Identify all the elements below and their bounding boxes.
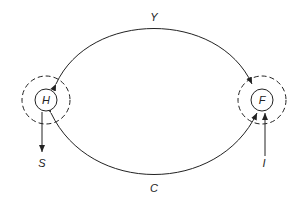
edge-y-arc bbox=[56, 29, 252, 85]
edge-i-label: I bbox=[262, 157, 265, 169]
edge-c-arc bbox=[51, 113, 257, 175]
edge-y-label: Y bbox=[150, 11, 158, 23]
diagram-canvas: H F Y C S I bbox=[0, 0, 305, 201]
node-h: H bbox=[22, 76, 70, 124]
node-f: F bbox=[238, 76, 286, 124]
edge-c-label: C bbox=[150, 182, 158, 194]
edge-s-label: S bbox=[38, 157, 46, 169]
node-h-label: H bbox=[42, 94, 50, 106]
